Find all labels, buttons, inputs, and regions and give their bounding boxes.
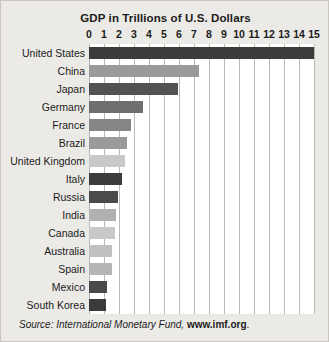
bar <box>89 65 199 77</box>
x-tick-label: 10 <box>233 28 245 40</box>
x-tick-label: 0 <box>86 28 92 40</box>
bar <box>89 137 127 149</box>
bar-row: China <box>1 62 314 80</box>
x-axis-tick-labels: 0123456789101112131415 <box>89 28 314 42</box>
x-tick-label: 11 <box>248 28 259 40</box>
bar <box>89 101 143 113</box>
bar <box>89 299 106 311</box>
category-label: Mexico <box>1 278 85 296</box>
category-label: France <box>1 116 85 134</box>
bar-row: South Korea <box>1 296 314 314</box>
bar-row: Australia <box>1 242 314 260</box>
bar <box>89 209 116 221</box>
bar <box>89 281 107 293</box>
x-tick-label: 1 <box>101 28 107 40</box>
bar <box>89 47 314 59</box>
bar-row: India <box>1 206 314 224</box>
category-label: United Kingdom <box>1 152 85 170</box>
bar <box>89 155 125 167</box>
category-label: Australia <box>1 242 85 260</box>
gdp-bar-chart-figure: GDP in Trillions of U.S. Dollars 0123456… <box>0 0 329 342</box>
bar-row: France <box>1 116 314 134</box>
bar-row: Brazil <box>1 134 314 152</box>
category-label: Canada <box>1 224 85 242</box>
bar-row: Italy <box>1 170 314 188</box>
gridline <box>314 44 315 314</box>
x-tick-label: 13 <box>278 28 290 40</box>
category-label: Brazil <box>1 134 85 152</box>
x-tick-label: 8 <box>206 28 212 40</box>
x-tick-label: 9 <box>221 28 227 40</box>
source-prefix: Source: International Monetary Fund, <box>19 319 187 330</box>
bar-row: Russia <box>1 188 314 206</box>
bar-row: Canada <box>1 224 314 242</box>
category-label: South Korea <box>1 296 85 314</box>
category-label: United States <box>1 44 85 62</box>
bar <box>89 173 122 185</box>
x-tick-label: 7 <box>191 28 197 40</box>
x-tick-label: 2 <box>116 28 122 40</box>
source-url: www.imf.org <box>187 319 247 330</box>
bar-row: Germany <box>1 98 314 116</box>
x-tick-label: 6 <box>176 28 182 40</box>
bar-row: Mexico <box>1 278 314 296</box>
source-note: Source: International Monetary Fund, www… <box>19 319 249 330</box>
category-label: China <box>1 62 85 80</box>
x-tick-label: 14 <box>293 28 305 40</box>
bar-rows: United StatesChinaJapanGermanyFranceBraz… <box>1 44 314 314</box>
category-label: Japan <box>1 80 85 98</box>
bar-row: United Kingdom <box>1 152 314 170</box>
category-label: Italy <box>1 170 85 188</box>
bar <box>89 119 131 131</box>
bar <box>89 263 112 275</box>
bar-row: United States <box>1 44 314 62</box>
x-tick-label: 5 <box>161 28 167 40</box>
bar <box>89 245 112 257</box>
category-label: Spain <box>1 260 85 278</box>
chart-title: GDP in Trillions of U.S. Dollars <box>1 12 329 24</box>
category-label: Russia <box>1 188 85 206</box>
bar <box>89 83 178 95</box>
source-suffix: . <box>247 319 250 330</box>
category-label: India <box>1 206 85 224</box>
bar <box>89 191 118 203</box>
x-tick-label: 3 <box>131 28 137 40</box>
x-tick-label: 4 <box>146 28 152 40</box>
x-tick-label: 15 <box>308 28 320 40</box>
x-tick-label: 12 <box>263 28 275 40</box>
bar-row: Spain <box>1 260 314 278</box>
bar <box>89 227 115 239</box>
category-label: Germany <box>1 98 85 116</box>
bar-row: Japan <box>1 80 314 98</box>
